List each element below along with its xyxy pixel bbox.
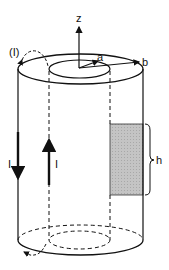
height-brace [145,124,154,195]
loop-label: (I) [9,46,19,58]
coaxial-cable-diagram: z a b (I) I I h [0,0,169,270]
inner-current-label: I [55,158,58,170]
outer-current-label: I [8,158,11,170]
z-axis-label: z [76,12,82,24]
loop-arc-bottom [24,244,46,255]
inner-bottom-ellipse [49,231,110,249]
outer-bottom-back [18,225,143,240]
radius-b-label: b [142,56,148,68]
radius-a-label: a [97,51,104,63]
shaded-surface [110,124,143,195]
outer-bottom-front [18,240,143,255]
height-label: h [156,154,162,166]
outer-top-ellipse [18,54,143,84]
